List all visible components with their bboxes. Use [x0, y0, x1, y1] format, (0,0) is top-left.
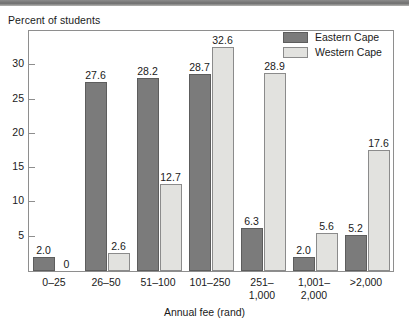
bar-eastern-cape[interactable]: 2.0	[33, 257, 55, 271]
plot-inner: 51015202530 2.0027.62.628.212.728.732.66…	[29, 31, 393, 271]
bar-value-label: 17.6	[368, 137, 388, 149]
bar-value-label: 12.7	[160, 171, 180, 183]
bar-value-label: 28.9	[264, 60, 284, 72]
bar-chart: Percent of students 51015202530 2.0027.6…	[0, 0, 409, 330]
x-tick-label: 1,001– 2,000	[288, 276, 340, 301]
y-tick-label: 25	[12, 92, 24, 104]
bar-western-cape[interactable]: 12.7	[160, 184, 182, 271]
bar-eastern-cape[interactable]: 2.0	[293, 257, 315, 271]
bar-western-cape[interactable]: 17.6	[368, 150, 390, 271]
bar-western-cape[interactable]: 2.6	[108, 253, 130, 271]
bar-eastern-cape[interactable]: 28.7	[189, 74, 211, 271]
y-tick-label: 15	[12, 160, 24, 172]
plot-area: 51015202530 2.0027.62.628.212.728.732.66…	[28, 30, 394, 272]
bar-value-label: 0	[64, 258, 70, 270]
bar-group: 5.217.6	[341, 31, 393, 271]
x-tick-label: 0–25	[28, 276, 80, 289]
bar-value-label: 28.7	[189, 61, 209, 73]
bar-value-label: 27.6	[85, 69, 105, 81]
y-tick-label: 5	[18, 229, 24, 241]
x-tick-label: >2,000	[340, 276, 392, 289]
bar-value-label: 5.6	[319, 220, 334, 232]
x-axis-title: Annual fee (rand)	[0, 306, 409, 318]
bar-group: 2.00	[29, 31, 81, 271]
y-tick-label: 20	[12, 126, 24, 138]
bar-eastern-cape[interactable]: 6.3	[241, 228, 263, 271]
x-axis-ticks: 0–2526–5051–100101–250251– 1,0001,001– 2…	[28, 276, 394, 310]
bar-group: 28.732.6	[185, 31, 237, 271]
bar-value-label: 5.2	[348, 222, 363, 234]
bar-value-label: 2.6	[111, 240, 126, 252]
x-tick-label: 101–250	[184, 276, 236, 289]
bar-group: 27.62.6	[81, 31, 133, 271]
legend-label: Eastern Cape	[315, 31, 379, 43]
y-tick-label: 30	[12, 57, 24, 69]
legend-swatch-icon	[283, 47, 308, 58]
bar-group: 6.328.9	[237, 31, 289, 271]
x-tick-label: 26–50	[80, 276, 132, 289]
bar-value-label: 6.3	[244, 215, 259, 227]
bar-western-cape[interactable]: 28.9	[264, 73, 286, 271]
bar-group: 2.05.6	[289, 31, 341, 271]
bar-group: 28.212.7	[133, 31, 185, 271]
bar-value-label: 2.0	[36, 244, 51, 256]
legend-item[interactable]: Eastern Cape	[283, 31, 382, 43]
legend-label: Western Cape	[315, 46, 382, 58]
bar-value-label: 28.2	[137, 65, 157, 77]
bar-eastern-cape[interactable]: 5.2	[345, 235, 367, 271]
bar-western-cape[interactable]: 32.6	[212, 47, 234, 271]
bar-eastern-cape[interactable]: 28.2	[137, 78, 159, 271]
bar-value-label: 2.0	[296, 244, 311, 256]
y-axis-title: Percent of students	[8, 14, 100, 26]
bar-eastern-cape[interactable]: 27.6	[85, 82, 107, 271]
legend-item[interactable]: Western Cape	[283, 46, 382, 58]
legend-swatch-icon	[283, 32, 308, 43]
bar-value-label: 32.6	[212, 34, 232, 46]
bar-western-cape[interactable]: 5.6	[316, 233, 338, 271]
x-tick-label: 51–100	[132, 276, 184, 289]
y-tick-label: 10	[12, 194, 24, 206]
legend: Eastern CapeWestern Cape	[283, 31, 382, 58]
bar-groups: 2.0027.62.628.212.728.732.66.328.92.05.6…	[29, 31, 393, 271]
x-tick-label: 251– 1,000	[236, 276, 288, 301]
